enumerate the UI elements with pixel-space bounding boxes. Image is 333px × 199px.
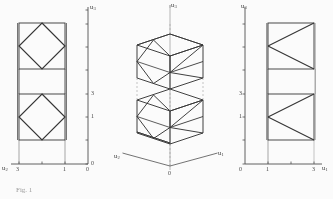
middle-panel-u3-axis-label: u3 (171, 2, 177, 10)
right-panel-lower-cell (268, 94, 314, 140)
right-panel-u1-tick-1: 1 (266, 166, 269, 172)
right-panel-upper-cell (268, 23, 314, 69)
left-panel-u3-axis-label: u3 (90, 4, 96, 12)
right-panel-u3-tick-3: 3 (239, 90, 242, 96)
right-panel-u3-tick-0: 0 (239, 166, 242, 172)
middle-panel-u2-axis-label: u2 (114, 153, 120, 161)
figure-caption: Fig. 1 (16, 186, 32, 194)
right-panel-u1-tick-3: 3 (312, 166, 315, 172)
left-projection-panel (11, 7, 88, 164)
middle-panel-origin-label: 0 (168, 170, 171, 176)
right-panel-u1-axis-label: u1 (322, 165, 328, 173)
left-panel-u2-axis (11, 162, 88, 165)
right-panel-u3-axis (243, 7, 246, 164)
left-panel-u3-tick-1: 1 (91, 113, 94, 119)
right-panel-side-rails (267, 23, 315, 140)
left-panel-u2-tick-1: 1 (63, 166, 66, 172)
right-projection-panel (243, 7, 323, 164)
figure-drawing (0, 0, 333, 199)
right-panel-projector-lines (268, 140, 314, 164)
middle-panel-u1-axis-label: u1 (218, 150, 224, 158)
left-panel-u3-tick-3: 3 (91, 90, 94, 96)
left-panel-u3-tick-0: 0 (91, 160, 94, 166)
left-panel-u2-tick-0: 0 (86, 166, 89, 172)
left-panel-projector-lines (19, 140, 65, 164)
left-panel-u2-tick-3: 3 (16, 166, 19, 172)
right-panel-u3-axis-label: u3 (241, 3, 247, 11)
middle-isometric-panel (123, 5, 218, 170)
left-panel-lower-cell (19, 94, 65, 140)
left-panel-u2-axis-label: u2 (2, 165, 8, 173)
left-panel-upper-cell (19, 23, 65, 69)
right-panel-u1-axis (245, 162, 322, 165)
right-panel-u3-tick-1: 1 (239, 113, 242, 119)
left-panel-u3-axis (86, 7, 89, 164)
